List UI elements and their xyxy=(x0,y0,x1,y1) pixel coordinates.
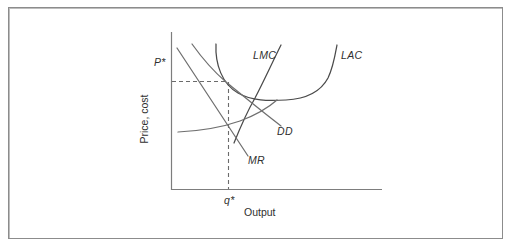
curve-label-mr: MR xyxy=(248,154,265,166)
curve-label-lmc: LMC xyxy=(253,49,276,61)
y-axis-title: Price, cost xyxy=(138,89,150,149)
y-axis-tick-label-p-star: P* xyxy=(154,56,166,68)
figure-frame xyxy=(8,7,503,239)
curve-label-lac: LAC xyxy=(341,49,362,61)
x-axis-tick-label-q-star: q* xyxy=(224,194,235,206)
x-axis-title: Output xyxy=(244,206,276,218)
curve-label-dd: DD xyxy=(277,125,293,137)
